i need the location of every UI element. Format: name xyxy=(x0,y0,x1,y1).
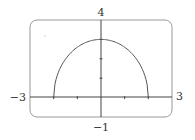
dot-artifact xyxy=(44,35,45,36)
plot: 4 −1 −3 3 xyxy=(0,0,195,140)
ymin-label: −1 xyxy=(93,121,109,134)
xmax-label: 3 xyxy=(176,90,183,103)
xmin-label: −3 xyxy=(10,91,26,104)
ymax-label: 4 xyxy=(98,6,105,19)
